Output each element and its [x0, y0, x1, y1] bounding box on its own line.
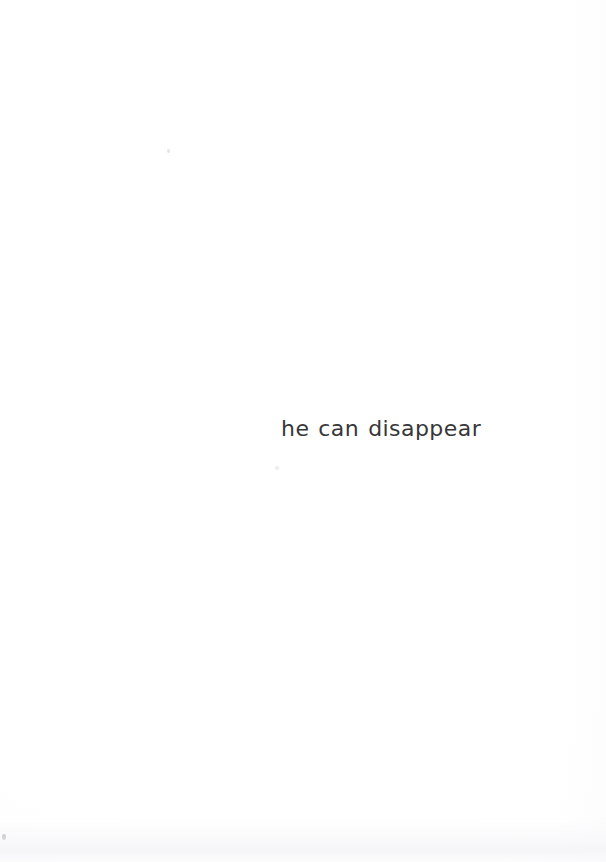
- page-body-text: he can disappear: [281, 415, 481, 443]
- scan-speck-icon: [2, 834, 6, 840]
- scan-speck-icon: [167, 149, 170, 153]
- scanned-page: he can disappear: [0, 0, 606, 862]
- right-margin-shading: [560, 0, 606, 862]
- scan-speck-icon: [275, 466, 279, 470]
- page-bottom-shadow: [0, 820, 606, 862]
